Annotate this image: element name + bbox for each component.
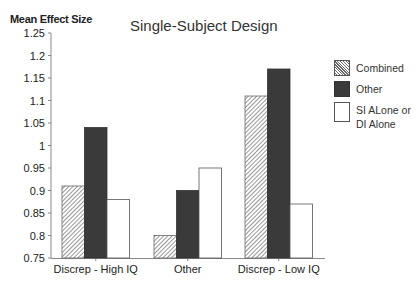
y-tick-label: 1	[39, 140, 45, 152]
bar-si-alone-or-di-alone	[199, 168, 222, 258]
y-tick-label: 0.75	[24, 252, 45, 264]
bar-chart-plot: 0.750.80.850.90.9511.051.11.151.21.25 Di…	[0, 0, 418, 284]
y-tick-label: 1.05	[24, 117, 45, 129]
bar-other	[177, 191, 200, 259]
y-tick-label: 1.25	[24, 27, 45, 39]
legend-label-line2: DI Alone	[356, 117, 411, 131]
y-tick-label: 1.2	[30, 50, 45, 62]
y-tick-label: 0.95	[24, 162, 45, 174]
bar-combined	[62, 186, 85, 258]
bar-other	[268, 69, 291, 258]
legend-label-line1: SI ALone or	[356, 103, 411, 117]
legend-label: Other	[356, 82, 382, 96]
y-axis-ticks: 0.750.80.850.90.9511.051.11.151.21.25	[24, 27, 51, 264]
bar-other	[85, 128, 108, 259]
y-tick-label: 0.9	[30, 185, 45, 197]
x-tick-label: Other	[174, 263, 202, 275]
y-tick-label: 0.85	[24, 207, 45, 219]
legend-label: SI ALone or DI Alone	[356, 103, 411, 131]
y-tick-label: 1.15	[24, 72, 45, 84]
x-axis-labels: Discrep - High IQOtherDiscrep - Low IQ	[54, 263, 321, 275]
bar-combined	[154, 236, 177, 259]
y-tick-label: 1.1	[30, 95, 45, 107]
bars	[62, 69, 313, 258]
y-tick-label: 0.8	[30, 230, 45, 242]
x-tick-label: Discrep - High IQ	[54, 263, 139, 275]
dark-swatch-icon	[334, 81, 350, 97]
bar-si-alone-or-di-alone	[107, 200, 130, 259]
bar-combined	[245, 96, 268, 258]
x-tick-label: Discrep - Low IQ	[238, 263, 320, 275]
bar-si-alone-or-di-alone	[290, 204, 313, 258]
legend-label: Combined	[356, 61, 404, 75]
white-swatch-icon	[334, 102, 350, 122]
hatched-swatch-icon	[334, 60, 350, 76]
